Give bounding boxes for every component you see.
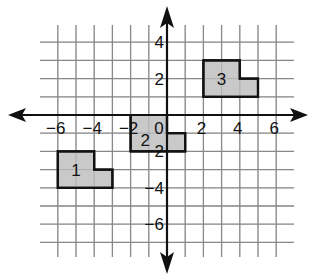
x-tick-label: −2 [119, 119, 138, 138]
shape-label-2: 2 [140, 131, 149, 150]
x-tick-label: 4 [233, 119, 242, 138]
y-tick-label: −4 [145, 179, 164, 198]
x-tick-label: 2 [197, 119, 206, 138]
x-tick-label: 0 [154, 119, 163, 138]
y-tick-label: 2 [155, 70, 164, 89]
shape-label-1: 1 [71, 161, 80, 180]
coordinate-grid-diagram: −6−4−2024642−2−4−6123 [0, 0, 314, 278]
y-tick-label: −6 [145, 215, 164, 234]
x-tick-label: 6 [269, 119, 278, 138]
shape-label-3: 3 [217, 70, 226, 89]
x-tick-label: −6 [46, 119, 65, 138]
x-tick-label: −4 [83, 119, 102, 138]
y-tick-label: 4 [155, 33, 164, 52]
